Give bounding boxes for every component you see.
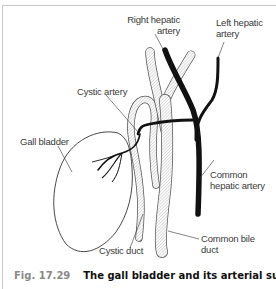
label-cystic-duct: Cystic duct [99, 245, 143, 256]
label-line: Common [210, 169, 265, 180]
label-common-hepatic-artery: Common hepatic artery [210, 169, 265, 191]
label-gall-bladder: Gall bladder [20, 136, 69, 147]
figure-title: The gall bladder and its arterial supply… [83, 270, 276, 281]
label-line: artery [216, 28, 263, 39]
label-line: hepatic artery [210, 180, 265, 191]
label-line: Right hepatic [120, 14, 180, 25]
leader-right-hepatic [155, 34, 163, 49]
figure-caption: Fig. 17.29 The gall bladder and its arte… [14, 268, 276, 283]
label-line: Common bile [201, 233, 255, 244]
label-line: Left hepatic [216, 17, 263, 28]
label-cystic-artery: Cystic artery [77, 86, 127, 97]
label-right-hepatic-artery: Right hepatic artery [120, 14, 180, 36]
gall-bladder-outline [54, 132, 133, 252]
leader-common-bile [168, 231, 199, 239]
leader-left-hepatic [218, 42, 224, 58]
figure-number: Fig. 17.29 [14, 270, 70, 281]
label-common-bile-duct: Common bile duct [201, 233, 255, 255]
label-line: artery [120, 25, 180, 36]
label-line: duct [201, 244, 255, 255]
label-left-hepatic-artery: Left hepatic artery [216, 17, 263, 39]
